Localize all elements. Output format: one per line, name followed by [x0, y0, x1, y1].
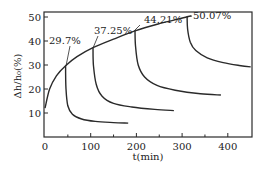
- x-tick-label: 100: [81, 141, 100, 152]
- annotation-label: 50.07%: [193, 10, 231, 21]
- y-axis-label: Δh/h₀(%): [12, 54, 23, 99]
- series-group: [45, 16, 251, 123]
- plot-frame: [44, 12, 252, 137]
- y-tick-label: 30: [28, 60, 41, 71]
- y-tick-label: 40: [28, 36, 41, 47]
- unloading-curve: [187, 17, 251, 67]
- y-axis: 1020304050: [28, 12, 48, 119]
- chart: 0100200300400 1020304050 29.7%37.25%44.2…: [0, 0, 259, 173]
- annotation-label: 37.25%: [94, 25, 132, 36]
- annotation-label: 44.21%: [144, 14, 182, 25]
- x-tick-label: 0: [42, 141, 48, 152]
- y-tick-label: 50: [28, 12, 41, 23]
- x-tick-label: 300: [173, 141, 192, 152]
- unloading-curve: [66, 66, 129, 123]
- y-tick-label: 20: [28, 84, 41, 95]
- unloading-curve: [135, 31, 221, 95]
- x-tick-label: 400: [218, 141, 237, 152]
- y-tick-label: 10: [28, 108, 41, 119]
- x-axis: 0100200300400: [42, 133, 238, 152]
- unloading-curve: [93, 48, 174, 111]
- annotation-label: 29.7%: [49, 35, 81, 46]
- x-axis-label: t(min): [133, 151, 164, 162]
